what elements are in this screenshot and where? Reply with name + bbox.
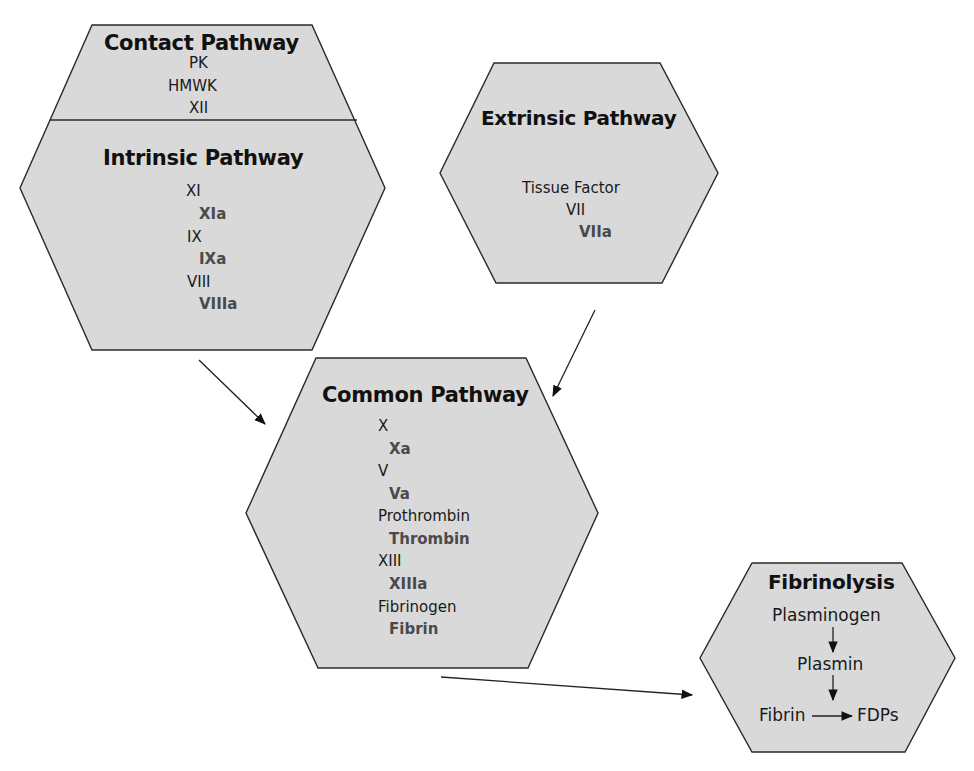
contact-item: HMWK [168,78,217,95]
extrinsic-item: VII [566,202,585,219]
common-item: X [378,418,388,435]
intrinsic-pathway-title: Intrinsic Pathway [103,146,303,170]
arrow-extrinsic-to-common [553,310,595,396]
common-item-activated: Fibrin [389,621,438,638]
common-item: Fibrinogen [378,599,457,616]
common-item-activated: Xa [389,441,411,458]
intrinsic-item: IX [187,229,202,246]
contact-pathway-title: Contact Pathway [104,31,299,55]
common-item-activated: XIIIa [389,576,427,593]
extrinsic-item-activated: VIIa [579,224,612,241]
common-item: V [378,463,388,480]
common-item: XIII [378,553,402,570]
common-pathway-title: Common Pathway [322,383,529,407]
fdps-label: FDPs [857,705,899,725]
common-item-activated: Va [389,486,410,503]
intrinsic-item: XI [186,183,201,200]
fibrin-label: Fibrin [759,705,806,725]
intrinsic-item-activated: IXa [199,251,226,268]
extrinsic-item: Tissue Factor [522,180,620,197]
intrinsic-item-activated: XIa [199,206,226,223]
intrinsic-item-activated: VIIIa [199,296,237,313]
plasminogen-label: Plasminogen [772,605,881,625]
arrow-common-to-fibrinolysis [441,677,692,695]
fibrinolysis-title: Fibrinolysis [768,570,895,594]
contact-item: PK [189,55,208,72]
common-item: Prothrombin [378,508,470,525]
arrow-intrinsic-to-common [199,360,265,424]
extrinsic-hexagon [440,63,718,283]
intrinsic-item: VIII [187,274,211,291]
common-item-activated: Thrombin [389,531,470,548]
plasmin-label: Plasmin [797,654,863,674]
extrinsic-pathway-title: Extrinsic Pathway [481,106,676,130]
contact-item: XII [189,100,208,117]
